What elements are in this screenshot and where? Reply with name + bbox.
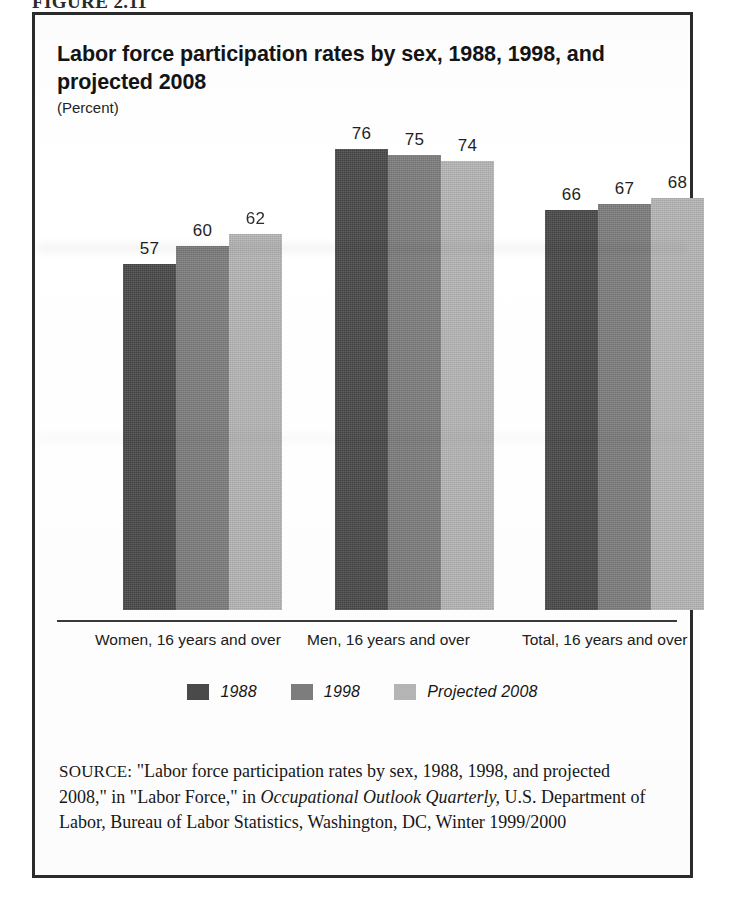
figure-panel: Labor force participation rates by sex, … [32,12,693,878]
legend-item[interactable]: Projected 2008 [394,683,537,701]
chart-baseline-axis [57,620,677,622]
category-axis-labels: Women, 16 years and overMen, 16 years an… [57,631,677,655]
bar-column: 76 [335,125,388,610]
bar-1998[interactable] [598,204,651,610]
bar-1988[interactable] [335,149,388,610]
bar-value-label: 66 [545,185,598,205]
bar-column: 68 [651,125,704,610]
bar-column: 74 [441,125,494,610]
bar-value-label: 74 [441,136,494,156]
bar-1998[interactable] [176,246,229,610]
chart-legend: 19881998Projected 2008 [35,683,690,701]
legend-label: 1988 [220,683,256,701]
bar-projected-2008[interactable] [651,198,704,610]
bar-value-label: 75 [388,130,441,150]
bar-group-bars: 767574 [335,125,494,610]
source-note: SOURCE: "Labor force participation rates… [59,759,659,836]
bar-chart-plot: 576062767574666768 [57,125,674,610]
bar-column: 57 [123,125,176,610]
legend-label: Projected 2008 [427,683,537,701]
bar-column: 62 [229,125,282,610]
bar-projected-2008[interactable] [441,161,494,610]
bar-value-label: 67 [598,179,651,199]
legend-swatch-projected-2008 [394,684,416,700]
source-italic-publication: Occupational Outlook Quarterly, [261,787,500,807]
bar-value-label: 68 [651,173,704,193]
bar-value-label: 60 [176,221,229,241]
bar-value-label: 62 [229,209,282,229]
legend-label: 1998 [324,683,360,701]
bar-column: 60 [176,125,229,610]
bar-group-bars: 666768 [545,125,704,610]
bar-1988[interactable] [545,210,598,610]
bar-group-bars: 576062 [123,125,282,610]
bar-value-label: 76 [335,124,388,144]
bar-1988[interactable] [123,264,176,610]
bar-column: 67 [598,125,651,610]
bar-projected-2008[interactable] [229,234,282,610]
category-label: Total, 16 years and over [522,631,687,649]
legend-swatch-1988 [187,684,209,700]
category-label: Men, 16 years and over [307,631,470,649]
category-label: Women, 16 years and over [95,631,281,649]
bar-column: 66 [545,125,598,610]
legend-swatch-1998 [291,684,313,700]
bar-1998[interactable] [388,155,441,610]
legend-item[interactable]: 1998 [291,683,360,701]
chart-subtitle: (Percent) [57,99,119,116]
chart-title: Labor force participation rates by sex, … [57,40,637,96]
bar-value-label: 57 [123,239,176,259]
legend-item[interactable]: 1988 [187,683,256,701]
bar-column: 75 [388,125,441,610]
source-label: SOURCE: [59,762,132,781]
